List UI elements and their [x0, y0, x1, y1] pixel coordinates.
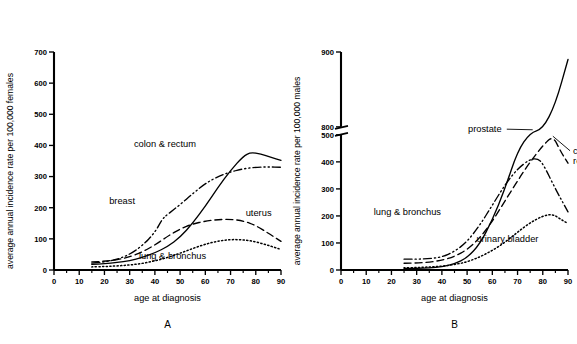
y-tick-label: 400 [321, 158, 334, 167]
x-tick-label: 90 [277, 277, 285, 286]
x-tick-label: 0 [339, 277, 343, 286]
y-tick-label: 500 [321, 131, 334, 140]
x-tick-label: 90 [564, 277, 572, 286]
x-tick-label: 40 [151, 277, 159, 286]
chart-svg-panel-a: 0102030405060708090010020030040050060070… [0, 0, 290, 344]
series-label: prostate [468, 124, 502, 134]
y-tick-label: 700 [34, 48, 47, 57]
x-tick-label: 80 [539, 277, 547, 286]
x-tick-label: 60 [488, 277, 496, 286]
y-tick-label: 400 [34, 141, 47, 150]
y-tick-label: 200 [321, 212, 334, 221]
x-tick-label: 40 [438, 277, 446, 286]
y-tick-label: 500 [34, 110, 47, 119]
series-label-leader [553, 136, 570, 151]
x-tick-label: 60 [201, 277, 209, 286]
x-tick-label: 0 [52, 277, 56, 286]
y-tick-label: 0 [330, 266, 334, 275]
series-label: colon & rectum [134, 139, 196, 149]
y-tick-label: 300 [321, 185, 334, 194]
x-tick-label: 10 [75, 277, 83, 286]
x-tick-label: 20 [100, 277, 108, 286]
chart-panel-a: 0102030405060708090010020030040050060070… [0, 0, 290, 344]
x-axis-title: age at diagnosis [421, 293, 488, 303]
y-axis-title: average annual incidence rate per 100,00… [5, 73, 15, 269]
y-tick-label: 600 [34, 79, 47, 88]
series-label: urinary bladder [476, 234, 538, 244]
x-tick-label: 70 [226, 277, 234, 286]
y-tick-label: 800 [321, 123, 334, 132]
x-tick-label: 50 [463, 277, 471, 286]
series-line-colon-rectum [404, 139, 568, 264]
series-label: lung & bronchus [374, 207, 442, 217]
x-tick-label: 80 [252, 277, 260, 286]
x-tick-label: 20 [387, 277, 395, 286]
y-axis-title: average annual incidence rate per 100,00… [292, 77, 302, 266]
series-label: lung & bronchus [139, 251, 207, 261]
y-tick-label: 0 [43, 266, 47, 275]
series-label-leader [507, 129, 533, 130]
series-label: colon &rectum [573, 146, 577, 166]
panel-letter: A [164, 319, 171, 330]
x-tick-label: 30 [412, 277, 420, 286]
x-tick-label: 50 [176, 277, 184, 286]
chart-panel-b: 0102030405060708090010020030040050080090… [287, 0, 577, 344]
y-tick-label: 100 [321, 239, 334, 248]
x-axis-title: age at diagnosis [134, 293, 201, 303]
y-tick-label: 300 [34, 172, 47, 181]
y-tick-label: 900 [321, 48, 334, 57]
figure-container: 0102030405060708090010020030040050060070… [0, 0, 577, 344]
panel-letter: B [451, 319, 458, 330]
x-tick-label: 70 [513, 277, 521, 286]
series-label: uterus [246, 208, 272, 218]
y-tick-label: 100 [34, 235, 47, 244]
y-tick-label: 200 [34, 204, 47, 213]
x-tick-label: 10 [362, 277, 370, 286]
x-tick-label: 30 [125, 277, 133, 286]
series-label: breast [109, 196, 135, 206]
chart-svg-panel-b: 0102030405060708090010020030040050080090… [287, 0, 577, 344]
